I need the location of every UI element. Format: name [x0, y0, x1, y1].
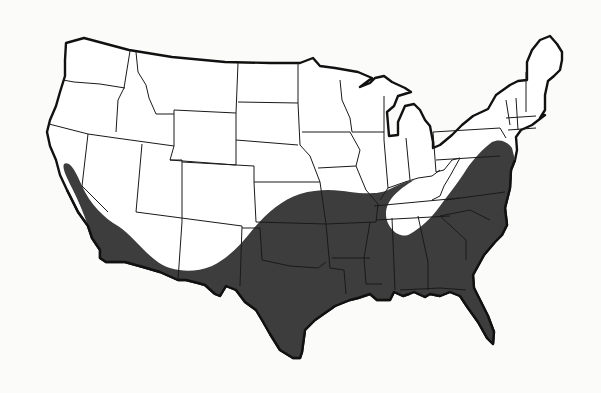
us-map: Contiguous United States	[0, 0, 601, 393]
us-map-svg	[0, 0, 601, 393]
